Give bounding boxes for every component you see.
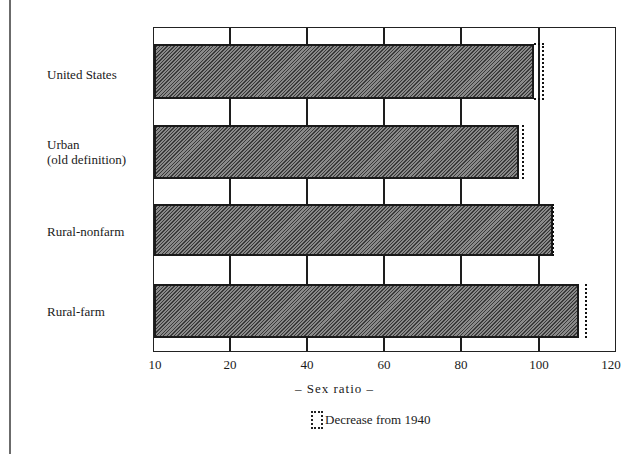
x-tick-20: 20 bbox=[224, 357, 237, 373]
decrease-urban bbox=[518, 125, 524, 179]
x-tick-120: 120 bbox=[601, 357, 621, 373]
bar-united-states bbox=[154, 44, 534, 99]
category-label-rural-nonfarm: Rural-nonfarm bbox=[47, 224, 124, 239]
category-label-united-states: United States bbox=[47, 67, 117, 82]
x-tick-10: 10 bbox=[149, 357, 162, 373]
category-label-rural-farm: Rural-farm bbox=[47, 304, 105, 319]
dotted-box-legend-icon bbox=[311, 411, 323, 429]
category-label-urban-line1: Urban bbox=[47, 137, 126, 152]
decrease-rural-nonfarm bbox=[551, 204, 554, 256]
decrease-rural-farm bbox=[578, 284, 587, 338]
decrease-united-states bbox=[534, 43, 544, 100]
x-tick-60: 60 bbox=[378, 357, 391, 373]
x-tick-100: 100 bbox=[529, 357, 549, 373]
plot-area bbox=[153, 27, 616, 352]
x-tick-40: 40 bbox=[301, 357, 314, 373]
legend-label: Decrease from 1940 bbox=[325, 412, 430, 428]
legend: Decrease from 1940 bbox=[311, 411, 430, 429]
category-label-urban: Urban (old definition) bbox=[47, 137, 126, 167]
x-tick-80: 80 bbox=[455, 357, 468, 373]
x-axis-label: – Sex ratio – bbox=[0, 381, 631, 397]
bar-rural-farm bbox=[154, 284, 579, 338]
bar-urban bbox=[154, 125, 519, 179]
bar-rural-nonfarm bbox=[154, 204, 553, 256]
category-label-urban-line2: (old definition) bbox=[47, 152, 126, 167]
